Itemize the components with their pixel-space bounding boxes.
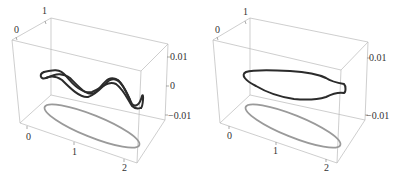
plot-right-canvas	[200, 0, 399, 181]
x-label-2: 2	[122, 163, 127, 173]
plot-left: 0 1 0 1 2 0.01 0 −0.01	[0, 0, 200, 181]
z-label-0: 0	[170, 81, 175, 91]
z-label-0.01: 0.01	[369, 53, 387, 63]
depth-label-0: 0	[215, 25, 220, 35]
x-label-1: 1	[72, 147, 77, 157]
z-label-neg-0.01: −0.01	[366, 111, 389, 121]
plot-right: 0 1 0 1 2 0.01 −0.01	[200, 0, 399, 181]
space-curve	[244, 70, 346, 99]
x-label-0: 0	[227, 131, 232, 141]
space-curve	[41, 70, 143, 108]
bounding-box	[12, 18, 168, 163]
axis-ticks	[217, 21, 370, 162]
x-label-2: 2	[324, 163, 329, 173]
projection-ellipse	[41, 97, 144, 156]
z-label-0.01: 0.01	[170, 52, 188, 62]
x-label-1: 1	[273, 146, 278, 156]
depth-label-0: 0	[14, 25, 19, 35]
projection-ellipse	[242, 97, 345, 156]
x-label-0: 0	[26, 132, 31, 142]
z-label-neg-0.01: −0.01	[168, 111, 191, 121]
depth-label-1: 1	[243, 7, 248, 17]
depth-label-1: 1	[42, 6, 47, 16]
